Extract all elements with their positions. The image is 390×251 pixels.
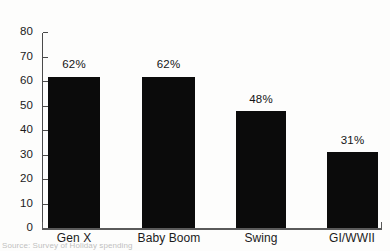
bar-baby-boom[interactable] [142, 77, 195, 228]
y-tick-label-60-wrap: 60 [0, 74, 33, 88]
chart-page: 0 10 20 30 40 50 60 70 8 [0, 0, 390, 251]
y-tick-label-30-wrap: 30 [0, 148, 33, 162]
y-tick-label-70: 70 [0, 50, 33, 62]
y-tick-label-50: 50 [0, 99, 33, 111]
y-tick-label-20-wrap: 20 [0, 172, 33, 186]
x-label-baby-boom: Baby Boom [126, 231, 212, 245]
x-axis-cap-right [381, 222, 382, 228]
bar-value-swing: 48% [236, 93, 286, 105]
y-tick-label-0: 0 [0, 221, 33, 233]
bar-value-gi-wwii: 31% [327, 134, 378, 146]
bar-gi-wwii[interactable] [327, 152, 378, 228]
y-tick-80 [43, 32, 48, 33]
y-tick-label-70-wrap: 70 [0, 50, 33, 64]
bar-gen-x[interactable] [48, 77, 100, 228]
y-tick-label-30: 30 [0, 148, 33, 160]
y-tick-label-80: 80 [0, 25, 33, 37]
y-tick-label-40-wrap: 40 [0, 123, 33, 137]
y-tick-label-40: 40 [0, 123, 33, 135]
bar-swing[interactable] [236, 111, 286, 228]
source-note: Source: Survey of Holiday spending [2, 241, 133, 250]
x-label-swing: Swing [224, 231, 298, 245]
bar-chart: 0 10 20 30 40 50 60 70 8 [0, 0, 390, 251]
x-label-gi-wwii: GI/WWII [314, 231, 390, 245]
x-axis-line [42, 228, 382, 230]
bar-value-gen-x: 62% [48, 58, 100, 70]
y-tick-label-0-wrap: 0 [0, 221, 33, 235]
y-tick-label-10-wrap: 10 [0, 197, 33, 211]
y-tick-label-50-wrap: 50 [0, 99, 33, 113]
y-tick-label-60: 60 [0, 74, 33, 86]
x-axis-cap-left [42, 222, 43, 228]
bar-value-baby-boom: 62% [142, 58, 195, 70]
y-tick-label-10: 10 [0, 197, 33, 209]
y-tick-label-20: 20 [0, 172, 33, 184]
y-tick-label-80-wrap: 80 [0, 25, 33, 39]
